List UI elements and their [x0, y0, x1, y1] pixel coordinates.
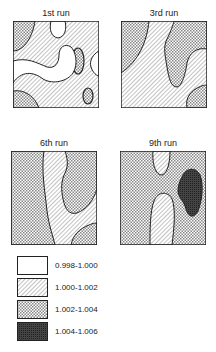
legend-swatch-dark: [17, 322, 48, 341]
legend-swatch-white: [17, 256, 48, 275]
panel-title-9th-run: 9th run: [118, 138, 208, 148]
panel-title-6th-run: 6th run: [9, 138, 99, 148]
panel-title-3rd-run: 3rd run: [119, 8, 209, 18]
legend-swatch-cross: [17, 300, 48, 319]
contour-map-3rd-run: [121, 21, 207, 108]
contour-map-6th-run: [11, 151, 97, 245]
contour-map-9th-run: [120, 151, 206, 245]
contour-map-1st-run: [13, 21, 99, 108]
legend-label: 1.000-1.002: [55, 283, 98, 292]
legend-swatch-diagonal: [17, 278, 48, 297]
legend-label: 0.998-1.000: [55, 261, 98, 270]
panel-title-1st-run: 1st run: [11, 8, 101, 18]
legend-label: 1.004-1.006: [55, 327, 98, 336]
legend-label: 1.002-1.004: [55, 305, 98, 314]
